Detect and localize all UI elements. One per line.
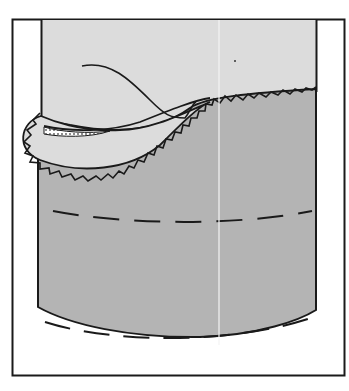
speck	[234, 60, 236, 62]
sewing-diagram	[0, 0, 349, 391]
